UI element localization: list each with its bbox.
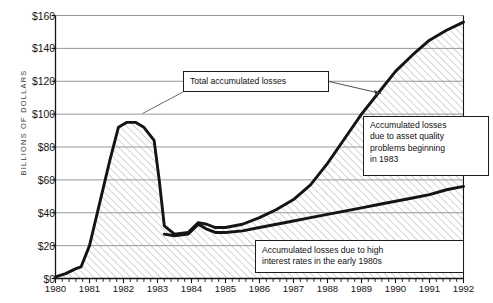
x-axis-tick-1990: 1990 bbox=[385, 283, 406, 294]
x-axis-tick-1992: 1992 bbox=[453, 283, 474, 294]
annotation-total-accumulated-losses: Total accumulated losses bbox=[183, 71, 329, 92]
y-axis-tick-80: $80 bbox=[9, 142, 55, 153]
x-axis-tick-1982: 1982 bbox=[113, 283, 134, 294]
annotation-asset-line-2: problems beginning bbox=[370, 143, 483, 154]
chart-container: BILLIONS OF DOLLARS $0$20$40$60$80$100$1… bbox=[0, 0, 493, 303]
annotation-asset-line-1: due to asset quality bbox=[370, 131, 483, 142]
y-axis-tick-140: $140 bbox=[9, 43, 55, 54]
annotation-asset-line-0: Accumulated losses bbox=[370, 120, 483, 131]
y-axis-tick-100: $100 bbox=[9, 109, 55, 120]
x-axis-tick-1980: 1980 bbox=[45, 283, 66, 294]
x-axis-tick-1991: 1991 bbox=[419, 283, 440, 294]
annotation-interest-rate-losses: Accumulated losses due to high interest … bbox=[255, 240, 464, 273]
y-axis-tick-labels: $0$20$40$60$80$100$120$140$160 bbox=[0, 0, 55, 303]
x-axis-tick-1983: 1983 bbox=[147, 283, 168, 294]
x-axis-tick-1988: 1988 bbox=[317, 283, 338, 294]
x-axis-tick-1989: 1989 bbox=[351, 283, 372, 294]
y-axis-tick-20: $20 bbox=[9, 240, 55, 251]
y-axis-tick-40: $40 bbox=[9, 207, 55, 218]
annotation-interest-line-0: Accumulated losses due to high bbox=[262, 245, 458, 256]
annotation-asset-line-3: in 1983 bbox=[370, 154, 483, 165]
x-axis-tick-1987: 1987 bbox=[283, 283, 304, 294]
y-axis-tick-120: $120 bbox=[9, 76, 55, 87]
annotation-asset-quality-losses: Accumulated losses due to asset quality … bbox=[363, 116, 489, 176]
annotation-total-line-0: Total accumulated losses bbox=[190, 76, 323, 87]
x-axis-tick-1981: 1981 bbox=[79, 283, 100, 294]
y-axis-tick-160: $160 bbox=[9, 10, 55, 21]
x-axis-tick-1986: 1986 bbox=[249, 283, 270, 294]
annotation-interest-line-1: interest rates in the early 1980s bbox=[262, 256, 458, 267]
y-axis-tick-60: $60 bbox=[9, 174, 55, 185]
x-axis-tick-1985: 1985 bbox=[215, 283, 236, 294]
x-axis-tick-1984: 1984 bbox=[181, 283, 202, 294]
